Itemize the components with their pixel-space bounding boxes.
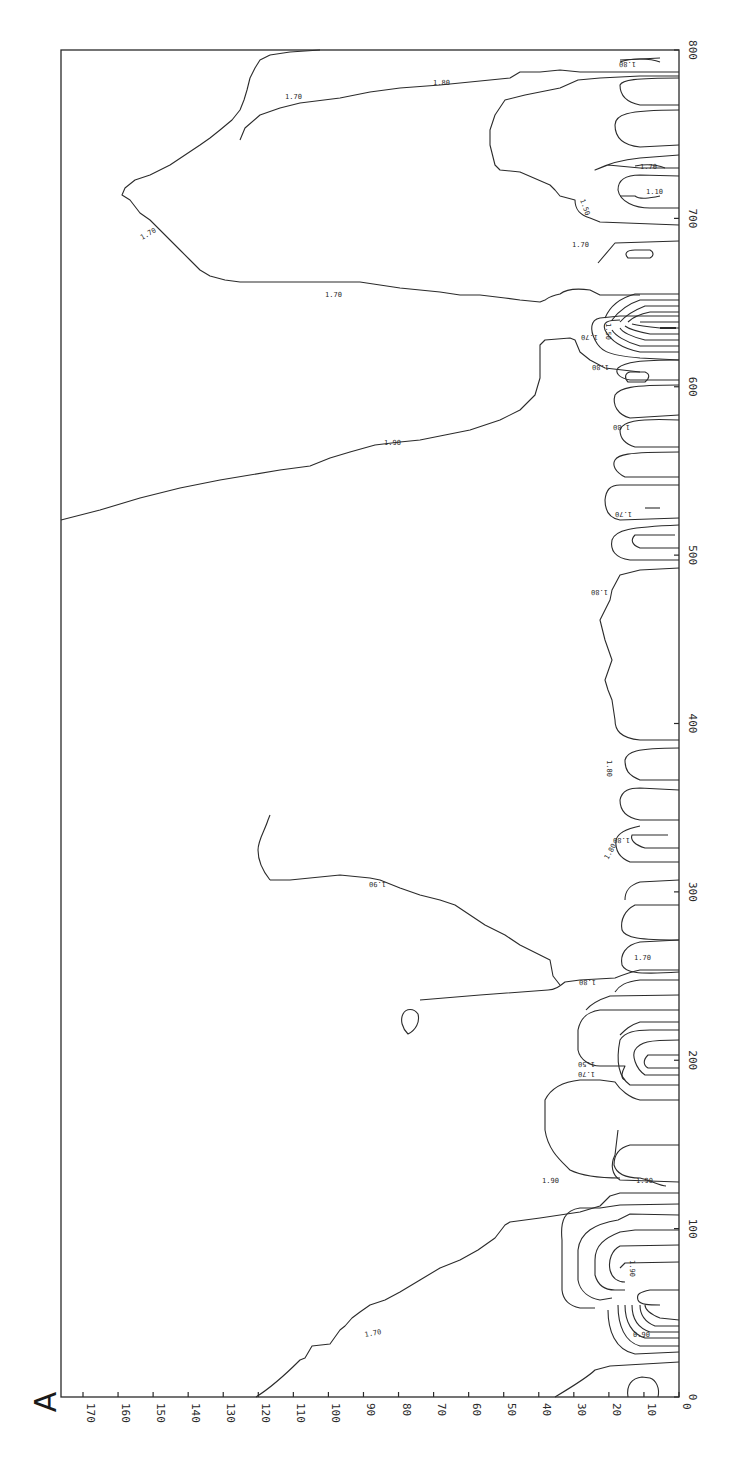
svg-text:1.70: 1.70 [325,291,342,299]
bottom-axis-tick-label: 60 [470,1403,483,1416]
bottom-axis-tick-label: 100 [329,1403,342,1423]
svg-text:1.70: 1.70 [139,226,158,241]
contour-chart: A 01020304050607080901001101201301401501… [0,0,733,1467]
right-axis: 0100200300400500600700800 [674,40,699,1400]
bottom-axis-tick-label: 170 [84,1403,97,1423]
bottom-axis-tick-label: 40 [540,1403,553,1416]
svg-text:1.70: 1.70 [285,93,302,101]
panel-label: A [28,1391,63,1412]
right-axis-tick-label: 200 [686,1050,699,1070]
right-axis-tick-label: 0 [686,1394,699,1401]
right-axis-tick-label: 800 [686,40,699,60]
bottom-axis-tick-label: 150 [154,1403,167,1423]
bottom-axis-tick-label: 50 [505,1403,518,1416]
contour-labels: 1.70 0.90 1.90 1.90 1.90 1.50 1.70 1.80 … [139,60,663,1339]
bottom-axis-tick-label: 20 [610,1403,623,1416]
svg-text:1.80: 1.80 [619,60,636,68]
bottom-axis-tick-label: 90 [364,1403,377,1416]
plot-frame [61,50,679,1397]
svg-text:1.50: 1.50 [578,1060,595,1068]
right-axis-tick-label: 600 [686,377,699,397]
right-axis-tick-label: 100 [686,1219,699,1239]
svg-text:1.70: 1.70 [572,241,589,249]
svg-text:1.80: 1.80 [603,842,618,861]
bottom-axis-tick-label: 70 [435,1403,448,1416]
svg-text:1.70: 1.70 [364,1328,382,1339]
bottom-axis-tick-label: 120 [259,1403,272,1423]
bottom-axis-tick-label: 10 [645,1403,658,1416]
bottom-axis-tick-label: 0 [680,1403,693,1410]
svg-text:1.70: 1.70 [578,1070,595,1078]
svg-text:1.80: 1.80 [592,363,609,371]
right-axis-tick-label: 700 [686,208,699,228]
svg-text:1.80: 1.80 [613,423,630,431]
svg-text:1.80: 1.80 [433,79,450,87]
svg-text:1.80: 1.80 [613,836,630,844]
svg-text:1.70: 1.70 [640,163,657,171]
bottom-axis-tick-label: 80 [400,1403,413,1416]
svg-text:1.70: 1.70 [634,954,651,962]
bottom-axis-tick-label: 160 [119,1403,132,1423]
svg-text:1.70: 1.70 [581,333,598,341]
svg-text:1.90: 1.90 [628,1260,636,1277]
svg-text:1.90: 1.90 [369,880,386,888]
bottom-axis-tick-label: 30 [575,1403,588,1416]
right-axis-tick-label: 500 [686,545,699,565]
right-axis-tick-label: 300 [686,882,699,902]
svg-text:1.90: 1.90 [542,1177,559,1185]
svg-text:1.80: 1.80 [579,978,596,986]
svg-text:1.90: 1.90 [384,439,401,447]
contour-lines [61,50,679,1397]
right-axis-tick-label: 400 [686,714,699,734]
svg-text:0.90: 0.90 [633,1331,650,1339]
svg-text:1.90: 1.90 [636,1177,653,1185]
svg-text:1.80: 1.80 [591,588,608,596]
svg-text:1.10: 1.10 [646,188,663,196]
svg-text:1.80: 1.80 [605,760,613,777]
bottom-axis-tick-label: 130 [224,1403,237,1423]
svg-text:1.70: 1.70 [615,510,632,518]
svg-text:1.50: 1.50 [604,323,612,340]
svg-text:1.50: 1.50 [578,198,591,217]
bottom-axis-tick-label: 110 [294,1403,307,1423]
bottom-axis-tick-label: 140 [189,1403,202,1423]
